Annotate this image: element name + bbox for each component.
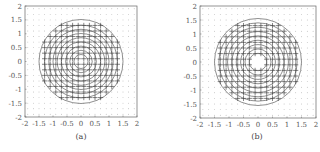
vector-field bbox=[27, 8, 134, 114]
svg-text:1.5: 1.5 bbox=[11, 16, 22, 24]
svg-text:-1: -1 bbox=[15, 86, 22, 94]
svg-text:-1.5: -1.5 bbox=[184, 101, 198, 109]
concentric-circles bbox=[215, 19, 302, 106]
svg-text:0: 0 bbox=[79, 120, 83, 128]
svg-text:-1: -1 bbox=[226, 121, 233, 129]
y-axis-ticks: -2-1.5-1-0.500.511.52 bbox=[184, 3, 202, 123]
x-axis-ticks: -2-1.5-1-0.500.511.52 bbox=[22, 116, 140, 129]
svg-text:-0.5: -0.5 bbox=[9, 72, 23, 80]
svg-text:-0.5: -0.5 bbox=[184, 73, 198, 81]
svg-text:-0.5: -0.5 bbox=[60, 120, 74, 128]
svg-text:-2: -2 bbox=[15, 114, 22, 122]
svg-text:1.5: 1.5 bbox=[186, 17, 197, 25]
svg-text:1: 1 bbox=[285, 121, 289, 129]
svg-text:2: 2 bbox=[193, 3, 197, 11]
svg-text:-2: -2 bbox=[190, 115, 197, 123]
svg-text:2: 2 bbox=[18, 3, 22, 11]
svg-text:1: 1 bbox=[193, 31, 197, 39]
svg-text:0.5: 0.5 bbox=[11, 44, 22, 52]
svg-text:2: 2 bbox=[135, 120, 139, 128]
svg-text:0: 0 bbox=[193, 59, 197, 67]
svg-text:0.5: 0.5 bbox=[186, 45, 197, 53]
quiver-plot-a: -2-1.5-1-0.500.511.52-2-1.5-1-0.500.511.… bbox=[0, 0, 160, 152]
caption-a: (a) bbox=[66, 132, 96, 141]
svg-text:-0.5: -0.5 bbox=[237, 121, 251, 129]
figure-panel-b: -2-1.5-1-0.500.511.52-2-1.5-1-0.500.511.… bbox=[160, 0, 320, 152]
x-axis-ticks: -2-1.5-1-0.500.511.52 bbox=[197, 117, 319, 130]
svg-text:1: 1 bbox=[18, 30, 22, 38]
svg-text:0: 0 bbox=[18, 58, 22, 66]
svg-text:2: 2 bbox=[314, 121, 318, 129]
axes-frame bbox=[25, 6, 137, 117]
figure-panel-a: -2-1.5-1-0.500.511.52-2-1.5-1-0.500.511.… bbox=[0, 0, 160, 152]
svg-text:-1: -1 bbox=[190, 87, 197, 95]
concentric-circles bbox=[39, 20, 123, 104]
svg-text:0: 0 bbox=[256, 121, 260, 129]
svg-text:-1.5: -1.5 bbox=[32, 120, 46, 128]
svg-text:1.5: 1.5 bbox=[117, 120, 128, 128]
svg-text:1: 1 bbox=[107, 120, 111, 128]
svg-text:-2: -2 bbox=[22, 120, 29, 128]
svg-text:1.5: 1.5 bbox=[296, 121, 307, 129]
caption-b: (b) bbox=[242, 132, 272, 141]
y-axis-ticks: -2-1.5-1-0.500.511.52 bbox=[9, 3, 27, 122]
svg-text:0.5: 0.5 bbox=[89, 120, 100, 128]
quiver-plot-b: -2-1.5-1-0.500.511.52-2-1.5-1-0.500.511.… bbox=[160, 0, 320, 152]
svg-text:-2: -2 bbox=[197, 121, 204, 129]
svg-text:-1: -1 bbox=[50, 120, 57, 128]
svg-text:-1.5: -1.5 bbox=[9, 100, 23, 108]
svg-text:-1.5: -1.5 bbox=[208, 121, 222, 129]
svg-text:0.5: 0.5 bbox=[267, 121, 278, 129]
